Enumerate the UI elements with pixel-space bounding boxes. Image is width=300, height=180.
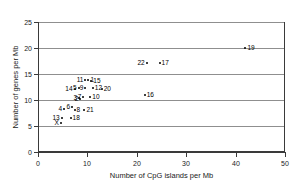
x-axis-line: [38, 152, 286, 153]
data-point-label: 4: [59, 106, 63, 113]
data-point-label: 9: [80, 85, 84, 92]
data-point-label: 17: [162, 59, 169, 66]
y-axis-title: Number of genes per Mb: [12, 46, 20, 129]
data-point: [74, 88, 76, 90]
x-tick-label-0: 0: [36, 160, 40, 167]
x-tick-0: [38, 153, 39, 157]
gridline-y-5: [39, 126, 284, 127]
data-point: [60, 122, 62, 124]
data-point: [159, 62, 161, 64]
data-point: [89, 96, 91, 98]
data-point-label: 20: [104, 85, 111, 92]
data-point-label: X: [54, 120, 58, 127]
data-point: [84, 79, 86, 81]
data-point: [82, 96, 84, 98]
y-axis-line: [38, 22, 39, 153]
data-point: [244, 47, 246, 49]
x-tick-40: [236, 153, 237, 157]
gridline-y-25: [39, 22, 284, 23]
x-tick-label-50: 50: [281, 160, 289, 167]
x-tick-label-20: 20: [133, 160, 141, 167]
data-point-label: 14: [65, 85, 72, 92]
x-tick-label-30: 30: [182, 160, 190, 167]
data-point: [83, 109, 85, 111]
data-point: [87, 79, 89, 81]
data-point-label: 16: [147, 92, 154, 99]
x-tick-50: [285, 153, 286, 157]
data-point: [63, 108, 65, 110]
scatter-chart: 051015202501020304050Number of CpG islan…: [0, 0, 300, 180]
data-point: [70, 117, 72, 119]
data-point-label: 21: [86, 107, 93, 114]
data-point: [74, 109, 76, 111]
data-point-label: 11: [77, 76, 84, 83]
data-point-label: 19: [247, 45, 254, 52]
data-point-label: 7: [78, 94, 82, 101]
x-tick-10: [87, 153, 88, 157]
data-point: [146, 62, 148, 64]
x-tick-20: [137, 153, 138, 157]
y-tick-label-0: 0: [12, 149, 32, 156]
data-point: [71, 106, 73, 108]
x-axis-title: Number of CpG islands per Mb: [110, 172, 213, 180]
data-point-label: 22: [137, 59, 144, 66]
data-point: [101, 88, 103, 90]
y-tick-label-25: 25: [12, 19, 32, 26]
data-point-label: 10: [92, 94, 99, 101]
data-point-label: 3: [73, 95, 77, 102]
data-point: [144, 94, 146, 96]
data-point: [92, 87, 94, 89]
x-tick-30: [186, 153, 187, 157]
x-tick-label-10: 10: [83, 160, 91, 167]
data-point-label: 18: [73, 114, 80, 121]
data-point: [90, 80, 92, 82]
data-point-label: 15: [93, 78, 100, 85]
x-tick-label-40: 40: [232, 160, 240, 167]
data-point-label: 6: [66, 104, 70, 111]
data-point: [84, 87, 86, 89]
data-point: [61, 117, 63, 119]
